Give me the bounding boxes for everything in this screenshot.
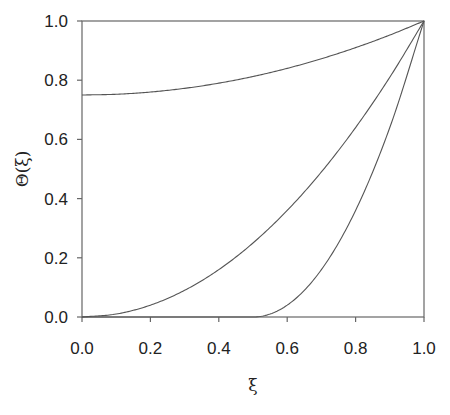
y-tick-label: 0.8 xyxy=(44,71,68,90)
x-tick-label: 0.2 xyxy=(139,339,163,358)
y-axis-label: Θ(ξ) xyxy=(12,151,32,188)
y-tick-label: 0.6 xyxy=(44,130,68,149)
curve-curve-2 xyxy=(82,21,424,317)
x-tick-label: 1.0 xyxy=(412,339,436,358)
y-tick-label: 0.4 xyxy=(44,190,68,209)
x-axis-ticks: 0.00.20.40.60.81.0 xyxy=(70,317,436,358)
x-axis-label: ξ xyxy=(248,375,257,395)
chart: 0.00.20.40.60.81.0 0.00.20.40.60.81.0 ξ … xyxy=(0,0,450,415)
curve-curve-3 xyxy=(82,21,424,317)
x-tick-label: 0.4 xyxy=(207,339,231,358)
x-tick-label: 0.0 xyxy=(70,339,94,358)
x-tick-label: 0.8 xyxy=(344,339,368,358)
curve-curve-1 xyxy=(82,21,424,95)
y-tick-label: 0.2 xyxy=(44,249,68,268)
y-tick-label: 1.0 xyxy=(44,12,68,31)
data-curves xyxy=(82,21,424,317)
plot-frame xyxy=(82,21,424,317)
y-tick-label: 0.0 xyxy=(44,308,68,327)
x-tick-label: 0.6 xyxy=(275,339,299,358)
y-axis-ticks: 0.00.20.40.60.81.0 xyxy=(44,12,82,327)
